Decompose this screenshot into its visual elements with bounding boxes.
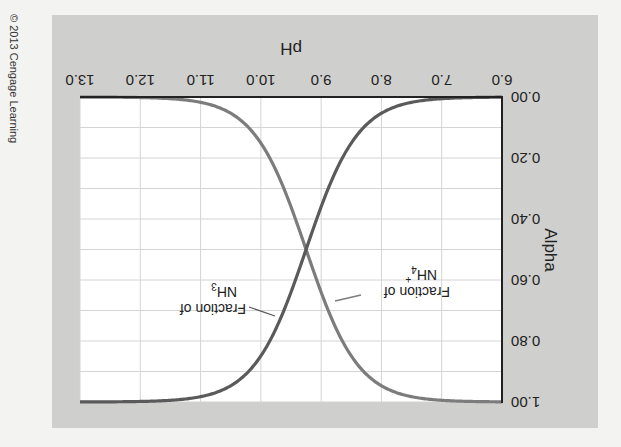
x-axis-label: pH (280, 39, 302, 58)
y-tick-label: 0.60 (511, 272, 540, 289)
y-tick-label: 0.40 (511, 211, 540, 228)
nh4-label-line1: Fraction of (384, 284, 450, 300)
x-tick-label: 10.0 (246, 72, 275, 89)
x-tick-label: 9.0 (311, 72, 332, 89)
y-axis-label: Alpha (541, 228, 560, 272)
copyright-notice: © 2013 Cengage Learning (6, 8, 22, 228)
alpha-vs-ph-chart: 6.07.08.09.010.011.012.013.0 0.000.200.4… (0, 0, 621, 447)
copyright-text: © 2013 Cengage Learning (8, 14, 20, 214)
x-tick-label: 6.0 (492, 72, 513, 89)
x-tick-label: 7.0 (431, 72, 452, 89)
y-tick-label: 0.80 (511, 333, 540, 350)
y-tick-label: 0.20 (511, 150, 540, 167)
x-tick-label: 11.0 (187, 72, 215, 89)
x-tick-label: 8.0 (371, 72, 392, 89)
nh3-label-line1: Fraction of (180, 301, 246, 317)
rotated-figure: 6.07.08.09.010.011.012.013.0 0.000.200.4… (0, 0, 621, 447)
y-tick-label: 0.00 (511, 89, 540, 106)
x-tick-label: 13.0 (65, 72, 94, 89)
y-tick-label: 1.00 (511, 394, 540, 411)
x-tick-label: 12.0 (126, 72, 155, 89)
